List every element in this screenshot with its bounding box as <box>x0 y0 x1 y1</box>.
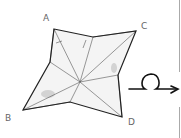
corner-label-a: A <box>43 13 50 23</box>
corner-label-d: D <box>128 117 135 127</box>
shade-mark <box>111 63 117 73</box>
corner-label-c: C <box>141 21 147 31</box>
shade-mark <box>41 90 55 98</box>
origami-diagram: A C B D <box>0 0 181 138</box>
turn-over-arrow-icon <box>129 74 178 93</box>
corner-label-b: B <box>5 113 11 123</box>
